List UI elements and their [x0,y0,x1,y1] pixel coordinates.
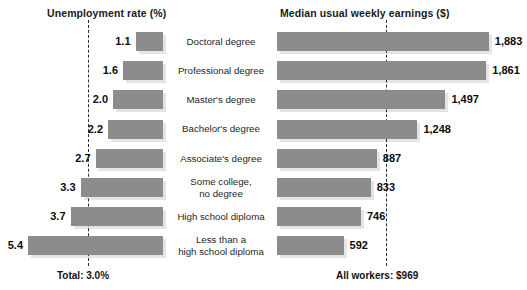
earnings-value-label: 1,883 [495,34,523,49]
category-label: Associate's degree [168,146,274,171]
earnings-value-label: 1,248 [423,122,451,137]
chart-row: 1.1Doctoral degree1,883 [0,29,527,58]
earnings-bar [277,236,344,255]
category-label: Less than ahigh school diploma [168,233,274,258]
unemployment-value-label: 1.1 [115,34,130,49]
unemployment-total-label: Total: 3.0% [57,270,109,281]
earnings-value-label: 1,497 [451,92,479,107]
unemployment-bar [71,207,164,226]
earnings-value-label: 746 [367,209,385,224]
earnings-bar [277,90,445,109]
earnings-bar [277,120,417,139]
chart-row: 2.7Associate's degree887 [0,146,527,175]
unemployment-column-header: Unemployment rate (%) [47,7,166,19]
chart-row: 3.3Some college,no degree833 [0,175,527,204]
chart-row: 3.7High school diploma746 [0,204,527,233]
category-label: Professional degree [168,58,274,83]
unemployment-bar [96,149,164,168]
earnings-bar [277,32,489,51]
unemployment-bar [28,236,163,255]
unemployment-bar [136,32,164,51]
chart-row: 2.0Master's degree1,497 [0,87,527,116]
chart-container: Unemployment rate (%) Median usual weekl… [0,0,527,290]
unemployment-bar [108,120,163,139]
category-label: High school diploma [168,204,274,229]
category-label: Some college,no degree [168,175,274,200]
chart-row: 1.6Professional degree1,861 [0,58,527,87]
earnings-bar [277,178,371,197]
category-label: Bachelor's degree [168,117,274,142]
chart-row: 5.4Less than ahigh school diploma592 [0,233,527,262]
earnings-value-label: 833 [377,180,395,195]
chart-row: 2.2Bachelor's degree1,248 [0,117,527,146]
unemployment-bar [123,61,163,80]
category-label: Doctoral degree [168,29,274,54]
unemployment-value-label: 5.4 [8,238,23,253]
unemployment-bar [113,90,163,109]
earnings-value-label: 1,861 [492,63,520,78]
earnings-value-label: 887 [383,151,401,166]
unemployment-value-label: 1.6 [103,63,118,78]
category-label: Master's degree [168,87,274,112]
unemployment-value-label: 2.7 [75,151,90,166]
earnings-column-header: Median usual weekly earnings ($) [280,7,450,19]
unemployment-value-label: 3.7 [50,209,65,224]
unemployment-bar [81,178,164,197]
unemployment-value-label: 3.3 [60,180,75,195]
unemployment-value-label: 2.2 [88,122,103,137]
earnings-bar [277,207,361,226]
earnings-bar [277,61,486,80]
earnings-bar [277,149,377,168]
earnings-value-label: 592 [350,238,368,253]
earnings-all-workers-label: All workers: $969 [336,270,418,281]
unemployment-value-label: 2.0 [93,92,108,107]
